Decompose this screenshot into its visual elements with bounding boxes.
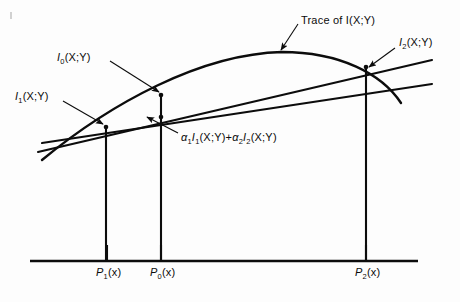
label-comb-I2-subscript: 2 (246, 137, 250, 146)
axis-label-p2-symbol: P (355, 266, 363, 278)
label-I0: I0(X;Y) (57, 51, 91, 63)
axis-label-p0: P0(x) (150, 266, 175, 278)
axis-label-p0-subscript: 0 (158, 272, 162, 281)
label-trace-text: Trace of I(X;Y) (301, 14, 375, 26)
label-I0-subscript: 0 (60, 57, 64, 66)
label-comb-args2: (X;Y) (251, 131, 277, 143)
label-leader-arrows-group (63, 24, 395, 133)
label-I2-args: (X;Y) (407, 36, 433, 48)
point-I2 (364, 65, 369, 70)
label-alpha1-subscript: 1 (187, 137, 191, 146)
label-trace-of-I: Trace of I(X;Y) (301, 14, 375, 26)
leader-arrow-i2 (369, 48, 395, 67)
label-I1-subscript: 1 (18, 96, 22, 105)
axis-label-p2: P2(x) (355, 266, 380, 278)
leader-arrow-trace (281, 24, 298, 50)
label-I1-args: (X;Y) (23, 90, 49, 102)
vertical-drop-lines-group (106, 67, 366, 261)
point-I0 (159, 93, 164, 98)
label-convex-combination: α1I1(X;Y)+α2I2(X;Y) (181, 131, 277, 143)
label-comb-args1: (X;Y)+ (200, 131, 233, 143)
axis-label-p1-subscript: 1 (104, 272, 108, 281)
axis-label-p0-symbol: P (150, 266, 158, 278)
point-I1 (104, 125, 109, 130)
figure-canvas: Trace of I(X;Y) I0(X;Y) I1(X;Y) I2(X;Y) … (0, 0, 460, 302)
diagram-svg (0, 0, 460, 302)
label-comb-I1-subscript: 1 (195, 137, 199, 146)
label-I2-subscript: 2 (402, 42, 406, 51)
leader-arrow-i0 (110, 61, 159, 92)
axis-tick-group (107, 245, 366, 261)
point-combination (159, 115, 164, 120)
intersection-points-group (104, 65, 369, 130)
axis-label-p1-symbol: P (96, 266, 104, 278)
axis-label-p0-args: (x) (162, 266, 175, 278)
leader-arrow-i1 (63, 101, 103, 124)
axis-label-p2-subscript: 2 (363, 272, 367, 281)
label-I2: I2(X;Y) (399, 36, 433, 48)
label-alpha2: α (232, 131, 238, 143)
axis-label-p2-args: (x) (367, 266, 380, 278)
trace-of-I-curve (42, 52, 401, 160)
label-I1: I1(X;Y) (15, 90, 49, 102)
axis-label-p1: P1(x) (96, 266, 121, 278)
label-alpha2-subscript: 2 (239, 137, 243, 146)
label-I0-args: (X;Y) (65, 51, 91, 63)
axis-label-p1-args: (x) (108, 266, 121, 278)
